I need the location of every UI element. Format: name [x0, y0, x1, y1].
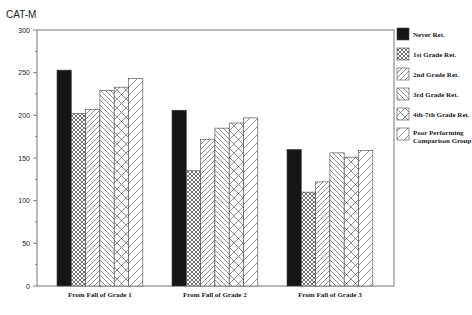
bar [57, 70, 71, 286]
bar [330, 153, 344, 286]
bar [100, 91, 114, 286]
bar [172, 110, 186, 286]
legend [397, 28, 409, 140]
legend-label-4th-7th-grade-ret: 4th-7th Grade Ret. [413, 111, 470, 119]
legend-label-poor-performing-line2: Comparison Group [413, 137, 471, 145]
bar [229, 123, 243, 286]
y-tick-label: 0 [26, 283, 30, 290]
legend-label-poor-performing-line1: Poor Performing [413, 129, 464, 137]
legend-swatch [397, 128, 409, 140]
bar [301, 192, 315, 286]
bar [186, 171, 200, 286]
legend-swatch [397, 108, 409, 120]
bar [359, 150, 373, 286]
bar [114, 87, 128, 286]
y-tick-label: 250 [18, 69, 30, 76]
x-category-label: From Fall of Grade 2 [183, 291, 247, 299]
bar [244, 118, 258, 286]
bar [215, 128, 229, 286]
bar [129, 79, 143, 286]
y-tick-label: 50 [22, 240, 30, 247]
bars: From Fall of Grade 1From Fall of Grade 2… [57, 70, 373, 299]
legend-label-3rd-grade-ret: 3rd Grade Ret. [413, 91, 458, 99]
bar [201, 139, 215, 286]
bar-chart: 050100150200250300 From Fall of Grade 1F… [0, 0, 472, 315]
legend-swatch [397, 68, 409, 80]
legend-swatch [397, 88, 409, 100]
legend-swatch [397, 48, 409, 60]
y-tick-label: 100 [18, 197, 30, 204]
x-category-label: From Fall of Grade 1 [68, 291, 132, 299]
bar [86, 109, 100, 286]
legend-label-never-ret: Never Ret. [413, 31, 445, 39]
bar [344, 157, 358, 286]
y-tick-label: 200 [18, 112, 30, 119]
y-tick-label: 150 [18, 155, 30, 162]
bar [287, 149, 301, 286]
legend-swatch [397, 28, 409, 40]
bar [316, 182, 330, 286]
y-tick-label: 300 [18, 27, 30, 34]
legend-label-1st-grade-ret: 1st Grade Ret. [413, 51, 456, 59]
bar [71, 114, 85, 286]
legend-label-2nd-grade-ret: 2nd Grade Ret. [413, 71, 459, 79]
x-category-label: From Fall of Grade 3 [298, 291, 362, 299]
